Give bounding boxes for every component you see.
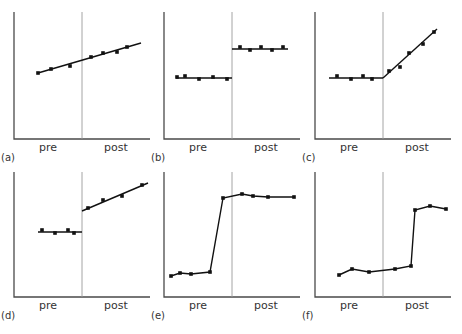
- data-point: [259, 45, 263, 49]
- data-point: [335, 74, 339, 78]
- data-point: [72, 231, 76, 235]
- data-point: [248, 48, 252, 52]
- data-point: [40, 228, 44, 232]
- x-label-post: post: [405, 299, 429, 312]
- data-point: [101, 51, 105, 55]
- data-point: [349, 77, 353, 81]
- x-label-post: post: [405, 141, 429, 154]
- data-point: [350, 267, 354, 271]
- panel-tag: (f): [302, 310, 313, 321]
- data-point: [53, 231, 57, 235]
- data-point: [421, 42, 425, 46]
- panel-tag: (b): [151, 152, 165, 163]
- data-point: [49, 67, 53, 71]
- panel-tag: (a): [1, 152, 15, 163]
- data-point: [387, 69, 391, 73]
- data-point: [197, 77, 201, 81]
- panel-e: prepost(e): [151, 172, 300, 321]
- data-point: [140, 183, 144, 187]
- x-label-pre: pre: [189, 141, 207, 154]
- data-point: [189, 272, 193, 276]
- data-point: [444, 207, 448, 211]
- series-line: [339, 206, 446, 275]
- series-line: [171, 194, 294, 276]
- data-point: [225, 77, 229, 81]
- data-point: [240, 192, 244, 196]
- data-point: [89, 55, 93, 59]
- x-label-pre: pre: [39, 299, 57, 312]
- data-point: [367, 270, 371, 274]
- x-label-post: post: [104, 141, 128, 154]
- data-point: [337, 273, 341, 277]
- data-point: [281, 45, 285, 49]
- data-point: [86, 206, 90, 210]
- data-point: [101, 198, 105, 202]
- data-point: [183, 74, 187, 78]
- data-point: [270, 48, 274, 52]
- data-point: [432, 30, 436, 34]
- data-point: [393, 267, 397, 271]
- x-label-pre: pre: [39, 141, 57, 154]
- x-label-pre: pre: [189, 299, 207, 312]
- data-point: [211, 75, 215, 79]
- panel-b: prepost(b): [151, 12, 300, 163]
- panel-d: prepost(d): [1, 172, 150, 321]
- data-point: [238, 45, 242, 49]
- data-point: [407, 51, 411, 55]
- panel-a: prepost(a): [1, 12, 150, 163]
- data-point: [221, 196, 225, 200]
- panel-tag: (d): [1, 310, 15, 321]
- data-point: [125, 45, 129, 49]
- x-label-post: post: [104, 299, 128, 312]
- data-point: [178, 271, 182, 275]
- data-point: [266, 195, 270, 199]
- data-point: [398, 65, 402, 69]
- panel-f: prepost(f): [302, 172, 451, 321]
- data-point: [66, 228, 70, 232]
- panel-c: prepost(c): [302, 12, 451, 163]
- data-point: [370, 77, 374, 81]
- figure-canvas: prepost(a)prepost(b)prepost(c)prepost(d)…: [0, 0, 462, 334]
- data-point: [413, 208, 417, 212]
- data-point: [251, 194, 255, 198]
- data-point: [68, 64, 72, 68]
- data-point: [120, 194, 124, 198]
- x-label-pre: pre: [340, 141, 358, 154]
- data-point: [292, 195, 296, 199]
- data-point: [428, 204, 432, 208]
- panel-tag: (c): [302, 152, 315, 163]
- data-point: [115, 50, 119, 54]
- fit-line: [82, 183, 148, 211]
- data-point: [175, 75, 179, 79]
- x-label-pre: pre: [340, 299, 358, 312]
- x-label-post: post: [254, 141, 278, 154]
- x-label-post: post: [254, 299, 278, 312]
- data-point: [169, 274, 173, 278]
- data-point: [409, 264, 413, 268]
- data-point: [361, 74, 365, 78]
- data-point: [36, 71, 40, 75]
- data-point: [208, 270, 212, 274]
- panel-tag: (e): [151, 310, 165, 321]
